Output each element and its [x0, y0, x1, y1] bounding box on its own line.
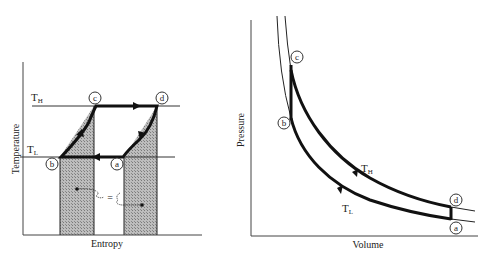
ts-diagram: TH TL c d b a = Entropy Temperature [10, 62, 202, 249]
point-c: c [291, 51, 303, 63]
point-d: d [156, 92, 168, 104]
svg-text:b: b [282, 118, 287, 128]
svg-text:a: a [454, 223, 458, 233]
svg-text:c: c [93, 93, 97, 103]
tl-curve-extension [277, 16, 291, 118]
svg-text:a: a [115, 159, 119, 169]
pv-diagram: TH TL c b d a Volume Pressure [235, 16, 478, 250]
svg-text:b: b [50, 159, 55, 169]
point-c: c [89, 92, 101, 104]
shaded-area-left [60, 106, 94, 235]
point-b: b [46, 158, 58, 170]
arrow-icon [133, 102, 141, 110]
shaded-area-right [124, 106, 157, 235]
point-a: a [450, 222, 462, 234]
svg-text:d: d [160, 93, 165, 103]
point-d: d [450, 194, 462, 206]
x-axis-label: Entropy [91, 238, 123, 249]
tl-label: TL [27, 143, 38, 157]
y-axis-label: Pressure [235, 113, 246, 147]
arrow-icon [352, 169, 358, 177]
y-axis-label: Temperature [10, 123, 21, 174]
diagram-canvas: TH TL c d b a = Entropy Temperature [0, 0, 490, 260]
th-label: TH [31, 91, 43, 105]
x-axis-label: Volume [353, 239, 384, 250]
svg-text:=: = [107, 192, 113, 203]
th-isotherm [291, 70, 451, 207]
point-a: a [111, 158, 123, 170]
svg-text:d: d [454, 195, 459, 205]
th-curve-extension [285, 16, 291, 70]
th-label: TH [361, 162, 373, 176]
svg-text:c: c [295, 52, 299, 62]
tl-label: TL [342, 202, 353, 216]
point-b: b [278, 117, 290, 129]
